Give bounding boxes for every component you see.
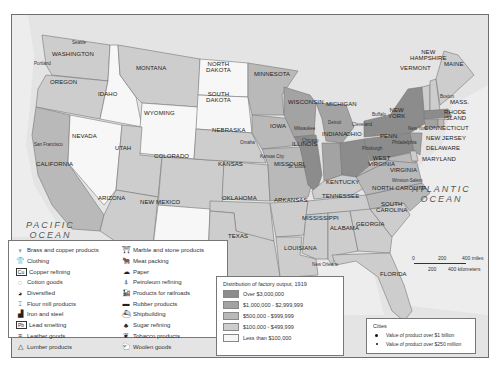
city-legend-billion: Value of product over $1 billion bbox=[375, 332, 475, 338]
legend-label: Lead smelting bbox=[29, 322, 66, 328]
label-new-mexico: NEW MEXICO bbox=[140, 199, 180, 205]
large-dot-icon bbox=[375, 334, 378, 337]
lumber-icon: △ bbox=[13, 343, 27, 351]
scale-tick-400: 400 miles bbox=[462, 255, 483, 261]
legend-item-iron-steel: ▟Iron and steel bbox=[13, 309, 99, 320]
tier-swatch bbox=[223, 323, 239, 331]
label-tennessee: TENNESSEE bbox=[322, 193, 359, 199]
label-kentucky: KENTUCKY bbox=[326, 179, 359, 185]
legend-item-ship: ⛴Shipbuilding bbox=[119, 309, 204, 320]
legend-label: Shipbuilding bbox=[133, 311, 166, 317]
distribution-legend-title: Distribution of factory output, 1919 bbox=[217, 277, 343, 287]
copper-icon: Cu bbox=[16, 268, 27, 276]
label-nebraska: NEBRASKA bbox=[212, 127, 245, 133]
legend-item-copper: CuCopper refining bbox=[13, 266, 99, 277]
scale-tick-200: 200 bbox=[438, 255, 446, 261]
tier-under-100k: Less than $100,000 bbox=[223, 334, 343, 342]
ship-icon: ⛴ bbox=[119, 310, 133, 318]
label-west-virginia: WEST VIRGINIA bbox=[368, 155, 395, 167]
leather-icon: ≡ bbox=[13, 332, 27, 339]
legend-label: Flour mill products bbox=[27, 301, 76, 307]
rubber-icon: ▬ bbox=[119, 300, 133, 307]
tier-100k-500k: $100,000 - $499,999 bbox=[223, 323, 343, 331]
label-virginia: VIRGINIA bbox=[390, 167, 417, 173]
distribution-legend: Distribution of factory output, 1919 Ove… bbox=[216, 276, 344, 356]
legend-item-meat: 🐂Meat packing bbox=[119, 256, 204, 267]
label-alabama: ALABAMA bbox=[330, 225, 359, 231]
legend-label: Sugar refining bbox=[133, 322, 170, 328]
small-dot-icon bbox=[376, 343, 378, 345]
label-washington: WASHINGTON bbox=[52, 51, 94, 57]
city-buffalo: Buffalo bbox=[372, 113, 386, 118]
legend-item-paper: ☁Paper bbox=[119, 266, 204, 277]
label-oregon: OREGON bbox=[50, 79, 77, 85]
marble-icon: ⛩ bbox=[119, 246, 133, 254]
label-iowa: IOWA bbox=[270, 123, 286, 129]
legend-item-marble: ⛩Marble and stone products bbox=[119, 245, 204, 256]
legend-item-diversified: ◕Diversified bbox=[13, 288, 99, 299]
railroad-icon: 🚂 bbox=[119, 289, 133, 297]
label-north-dakota: NORTH DAKOTA bbox=[206, 61, 231, 73]
pacific-ocean-label: PACIFIC OCEAN bbox=[26, 221, 75, 241]
legend-label: Leather goods bbox=[27, 333, 65, 339]
label-north-carolina: NORTH CAROLINA bbox=[372, 185, 427, 191]
tier-1m-3m: $1,000,000 - $2,999,999 bbox=[223, 301, 343, 309]
label-indiana: INDIANA bbox=[322, 131, 347, 137]
label-arizona: ARIZONA bbox=[98, 195, 125, 201]
legend-label: Paper bbox=[133, 269, 149, 275]
tier-swatch bbox=[223, 334, 239, 342]
label-montana: MONTANA bbox=[136, 65, 166, 71]
tobacco-icon: ❦ bbox=[119, 332, 133, 340]
label-new-jersey: NEW JERSEY bbox=[426, 135, 466, 141]
legend-item-tobacco: ❦Tobacco products bbox=[119, 331, 204, 342]
flour-icon: ⌶ bbox=[13, 300, 27, 308]
legend-label: Cotton goods bbox=[27, 279, 63, 285]
legend-label: Diversified bbox=[27, 290, 55, 296]
legend-item-clothing: 👕Clothing bbox=[13, 256, 99, 267]
city-cleveland: Cleveland bbox=[352, 123, 372, 128]
label-colorado: COLORADO bbox=[154, 153, 189, 159]
industry-legend: ♆Brass and copper products 👕Clothing CuC… bbox=[8, 240, 228, 338]
label-utah: UTAH bbox=[115, 145, 131, 151]
label-south-carolina: SOUTH CAROLINA bbox=[376, 201, 407, 213]
label-georgia: GEORGIA bbox=[356, 221, 385, 227]
label-michigan: MICHIGAN bbox=[326, 101, 357, 107]
legend-label: Meat packing bbox=[133, 258, 169, 264]
label-pennsylvania: PENN. bbox=[380, 133, 399, 139]
city-legend-250m: Value of product over $250 million bbox=[375, 341, 475, 347]
label-kansas: KANSAS bbox=[218, 161, 243, 167]
sugar-icon: ♣ bbox=[119, 322, 133, 329]
legend-label: Copper refining bbox=[29, 269, 70, 275]
paper-icon: ☁ bbox=[119, 268, 133, 276]
label-connecticut: CONNECTICUT bbox=[424, 125, 469, 131]
cotton-icon: ◌ bbox=[13, 279, 27, 286]
industry-legend-col2: ⛩Marble and stone products 🐂Meat packing… bbox=[119, 245, 204, 352]
scale-km-400: 400 kilometers bbox=[448, 266, 481, 272]
city-san-francisco: San Francisco bbox=[34, 143, 63, 148]
label-rhode-island: RHODE ISLAND bbox=[444, 109, 466, 121]
tier-swatch bbox=[223, 290, 239, 298]
legend-label: Woolen goods bbox=[133, 344, 171, 350]
city-seattle: Seattle bbox=[72, 41, 86, 46]
label-mississippi: MISSISSIPPI bbox=[302, 215, 339, 221]
city-new-orleans: New Orleans bbox=[312, 263, 338, 268]
legend-label: Brass and copper products bbox=[27, 247, 99, 253]
legend-label: Marble and stone products bbox=[133, 247, 204, 253]
label-florida: FLORIDA bbox=[380, 271, 407, 277]
clothing-icon: 👕 bbox=[13, 257, 27, 265]
tier-label: $1,000,000 - $2,999,999 bbox=[243, 302, 303, 308]
label-new-hampshire: NEW HAMPSHIRE bbox=[410, 49, 447, 61]
scale-tick-0: 0 bbox=[412, 255, 415, 261]
city-omaha: Omaha bbox=[240, 141, 255, 146]
legend-label: Petroleum refining bbox=[133, 279, 182, 285]
legend-item-sugar: ♣Sugar refining bbox=[119, 320, 204, 331]
cities-legend: Cities Value of product over $1 billion … bbox=[366, 318, 476, 354]
city-legend-label: Value of product over $1 billion bbox=[386, 332, 454, 338]
label-texas: TEXAS bbox=[228, 233, 248, 239]
label-vermont: VERMONT bbox=[400, 65, 431, 71]
label-nevada: NEVADA bbox=[72, 133, 97, 139]
label-massachusetts: MASS. bbox=[450, 99, 469, 105]
label-delaware: DELAWARE bbox=[426, 145, 460, 151]
lead-icon: Pb bbox=[16, 321, 27, 329]
meat-icon: 🐂 bbox=[119, 257, 133, 265]
